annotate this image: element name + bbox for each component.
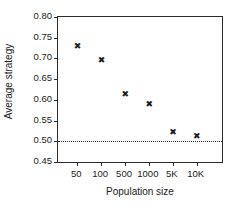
y-axis-tick-labels: 0.450.500.550.600.650.700.750.80 — [16, 0, 52, 180]
y-axis-tick-mark — [54, 38, 58, 39]
y-axis-tick-label: 0.75 — [16, 32, 52, 42]
y-axis-tick-label: 0.65 — [16, 73, 52, 83]
x-axis-tick-mark — [173, 162, 174, 166]
y-axis-tick-mark — [54, 79, 58, 80]
data-point-marker: ✖ — [145, 101, 152, 108]
y-axis-tick-label: 0.60 — [16, 94, 52, 104]
x-axis-tick-mark — [125, 162, 126, 166]
y-axis-tick-label: 0.45 — [16, 156, 52, 166]
data-point-marker: ✖ — [74, 43, 81, 50]
x-axis-tick-mark — [77, 162, 78, 166]
y-axis-label-text: Average strategy — [4, 44, 15, 119]
x-axis-tick-mark — [149, 162, 150, 166]
y-axis-tick-label: 0.55 — [16, 115, 52, 125]
plot-area: ✖✖✖✖✖✖ — [57, 16, 223, 163]
chart-figure: Average strategy 0.450.500.550.600.650.7… — [0, 0, 235, 214]
x-axis-tick-label: 10K — [176, 168, 216, 179]
y-axis-tick-mark — [54, 17, 58, 18]
y-axis-tick-mark — [54, 58, 58, 59]
y-axis-tick-mark — [54, 100, 58, 101]
y-axis-tick-label: 0.80 — [16, 11, 52, 21]
data-point-marker: ✖ — [193, 133, 200, 140]
y-axis-tick-mark — [54, 121, 58, 122]
x-axis-label: Population size — [57, 186, 223, 197]
x-axis-tick-mark — [197, 162, 198, 166]
x-axis-tick-mark — [101, 162, 102, 166]
x-axis-tick-labels: 5010050010005K10K — [57, 168, 223, 182]
y-axis-tick-mark — [54, 141, 58, 142]
y-axis-tick-mark — [54, 162, 58, 163]
data-point-marker: ✖ — [169, 129, 176, 136]
y-axis-tick-label: 0.50 — [16, 135, 52, 145]
data-point-marker: ✖ — [98, 57, 105, 64]
y-axis-tick-label: 0.70 — [16, 52, 52, 62]
reference-line — [58, 141, 222, 142]
data-point-marker: ✖ — [122, 91, 129, 98]
